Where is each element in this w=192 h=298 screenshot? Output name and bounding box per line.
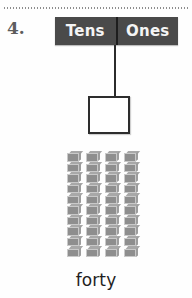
base-ten-blocks-group xyxy=(67,151,139,261)
unit-cube xyxy=(86,151,101,162)
unit-cube xyxy=(67,193,82,204)
unit-cube xyxy=(105,246,120,257)
unit-cube xyxy=(124,204,139,215)
unit-cube xyxy=(105,151,120,162)
unit-cube xyxy=(105,225,120,236)
ten-rod xyxy=(105,151,120,261)
unit-cube xyxy=(86,193,101,204)
unit-cube xyxy=(86,183,101,194)
unit-cube xyxy=(86,246,101,257)
unit-cube xyxy=(105,236,120,247)
unit-cube xyxy=(105,193,120,204)
unit-cube xyxy=(124,215,139,226)
unit-cube xyxy=(67,162,82,173)
ten-rod xyxy=(124,151,139,261)
unit-cube xyxy=(67,151,82,162)
unit-cube xyxy=(67,204,82,215)
unit-cube xyxy=(105,204,120,215)
unit-cube xyxy=(67,183,82,194)
unit-cube xyxy=(86,225,101,236)
unit-cube xyxy=(67,172,82,183)
connector-line-icon xyxy=(114,45,116,97)
unit-cube xyxy=(86,172,101,183)
unit-cube xyxy=(67,215,82,226)
unit-cube xyxy=(86,162,101,173)
unit-cube xyxy=(86,204,101,215)
worksheet-problem: 4. Tens Ones xyxy=(0,0,192,298)
unit-cube xyxy=(67,225,82,236)
unit-cube xyxy=(124,162,139,173)
unit-cube xyxy=(124,172,139,183)
unit-cube xyxy=(105,172,120,183)
unit-cube xyxy=(124,246,139,257)
unit-cube xyxy=(67,246,82,257)
unit-cube xyxy=(124,225,139,236)
unit-cube xyxy=(105,183,120,194)
unit-cube xyxy=(67,236,82,247)
unit-cube xyxy=(124,193,139,204)
problem-number: 4. xyxy=(7,18,25,38)
place-value-chart-header: Tens Ones xyxy=(55,17,178,45)
answer-box-value[interactable] xyxy=(90,98,128,132)
unit-cube xyxy=(105,162,120,173)
unit-cube xyxy=(124,183,139,194)
place-value-tens-label: Tens xyxy=(55,17,116,45)
dotted-divider-rule xyxy=(4,7,188,9)
unit-cube xyxy=(124,151,139,162)
number-word-label: forty xyxy=(0,270,192,290)
unit-cube xyxy=(124,236,139,247)
ten-rod xyxy=(67,151,82,261)
unit-cube xyxy=(86,236,101,247)
unit-cube xyxy=(105,215,120,226)
ten-rod xyxy=(86,151,101,261)
place-value-ones-label: Ones xyxy=(118,17,179,45)
unit-cube xyxy=(86,215,101,226)
answer-box[interactable] xyxy=(88,96,130,134)
